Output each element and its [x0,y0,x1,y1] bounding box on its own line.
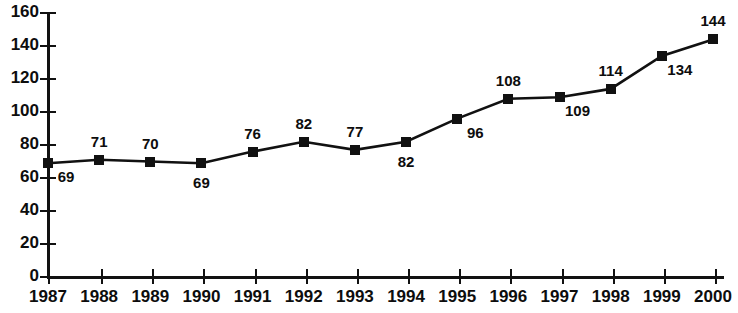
data-point-label: 82 [398,152,415,169]
data-point-label: 144 [700,12,725,29]
series-polyline [0,0,738,313]
data-point-label: 76 [244,124,261,141]
data-point-marker [350,145,360,155]
data-point-label: 69 [58,168,75,185]
data-point-marker [452,114,462,124]
data-point-label: 134 [667,60,692,77]
data-point-marker [606,84,616,94]
data-point-marker [94,155,104,165]
data-point-label: 109 [565,102,590,119]
data-point-label: 114 [599,61,623,78]
data-point-marker [401,137,411,147]
data-point-marker [43,158,53,168]
data-point-label: 108 [496,71,521,88]
data-point-label: 71 [91,132,108,149]
data-point-label: 77 [347,122,364,139]
data-point-marker [145,157,155,167]
data-point-marker [248,147,258,157]
line-chart: 020406080100120140160 198719881989199019… [0,0,738,313]
data-point-marker [299,137,309,147]
data-point-label: 69 [193,174,210,191]
data-point-marker [555,92,565,102]
data-point-marker [196,158,206,168]
data-point-marker [503,94,513,104]
data-point-label: 96 [467,123,484,140]
data-point-label: 70 [142,134,159,151]
data-point-marker [657,51,667,61]
data-point-marker [708,34,718,44]
data-point-label: 82 [295,114,312,131]
